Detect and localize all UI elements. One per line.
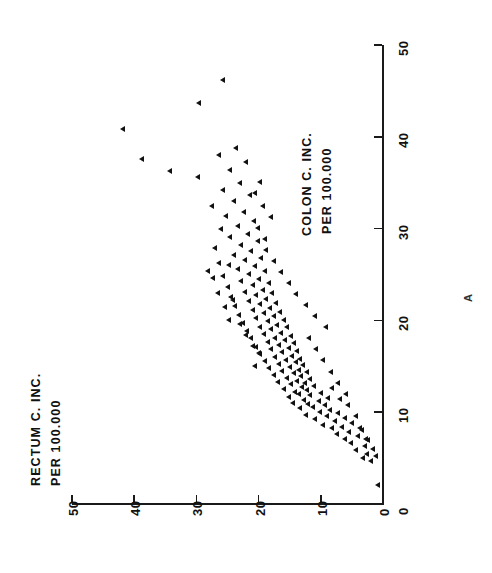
scatter-point <box>265 339 270 345</box>
scatter-point <box>271 372 276 378</box>
scatter-point <box>209 203 214 209</box>
scatter-point <box>282 337 287 343</box>
scatter-point <box>226 262 231 268</box>
scatter-point <box>375 482 380 488</box>
y-axis-title-line1: RECTUM C. INC. <box>29 373 43 486</box>
scatter-point <box>368 458 373 464</box>
scatter-point <box>290 400 295 406</box>
scatter-point <box>215 290 220 296</box>
scatter-point <box>250 343 255 349</box>
plate-annotation: A <box>462 294 474 302</box>
scatter-point <box>231 252 236 258</box>
scatter-point <box>212 245 217 251</box>
scatter-point <box>312 313 317 319</box>
y-tick-label: 20 <box>253 501 268 516</box>
scatter-point <box>241 209 246 215</box>
y-axis-title-line2: PER 100.000 <box>49 400 63 486</box>
scatter-point <box>256 276 261 282</box>
scatter-point <box>337 396 342 402</box>
scatter-point <box>316 398 321 404</box>
scatter-point <box>235 223 240 229</box>
scatter-point <box>167 168 172 174</box>
scatter-point <box>266 280 271 286</box>
scatter-point <box>327 407 332 413</box>
scatter-point <box>301 397 306 403</box>
scatter-point <box>317 409 322 415</box>
scatter-point <box>262 236 267 242</box>
y-axis-line <box>72 503 384 505</box>
scatter-point <box>329 425 334 431</box>
x-axis-title-line1: COLON C. INC. <box>300 132 314 236</box>
scatter-point <box>205 268 210 274</box>
scatter-point <box>256 350 261 356</box>
scatter-point <box>268 346 273 352</box>
scatter-point <box>257 301 262 307</box>
scatter-point <box>263 296 268 302</box>
scatter-point <box>323 324 328 330</box>
scatter-point <box>373 453 378 459</box>
scatter-point <box>245 231 250 237</box>
y-tick-label: 50 <box>66 501 81 516</box>
scatter-point <box>257 324 262 330</box>
scatter-point <box>310 404 315 410</box>
scatter-point <box>332 418 337 424</box>
scatter-point <box>242 257 247 263</box>
scatter-point <box>286 394 291 400</box>
scatter-point <box>292 389 297 395</box>
scatter-point <box>278 269 283 275</box>
scatter-point <box>248 248 253 254</box>
scatter-point <box>355 433 360 439</box>
scatter-point <box>297 356 302 362</box>
scatter-point <box>313 346 318 352</box>
scatter-point <box>262 268 267 274</box>
scatter-point <box>281 317 286 323</box>
x-tick-label: 10 <box>396 408 411 423</box>
scatter-point <box>343 391 348 397</box>
y-tick-label: 0 <box>377 508 392 516</box>
scatter-point <box>339 424 344 430</box>
scatter-point <box>120 126 125 132</box>
scatter-point <box>271 313 276 319</box>
scatter-point <box>278 330 283 336</box>
scatter-point <box>263 247 268 253</box>
scatter-point <box>272 335 277 341</box>
scatter-point <box>362 443 367 449</box>
x-tick-mark <box>374 136 382 138</box>
scatter-point <box>304 369 309 375</box>
scatter-point <box>329 385 334 391</box>
scatter-point <box>349 420 354 426</box>
scatter-point <box>357 425 362 431</box>
scatter-point <box>258 255 263 261</box>
scatter-point <box>246 271 251 277</box>
x-tick-label: 30 <box>396 224 411 239</box>
scatter-point <box>238 278 243 284</box>
scatter-point <box>311 383 316 389</box>
scatter-point <box>252 263 257 269</box>
scatter-point <box>293 291 298 297</box>
scatter-point <box>252 363 257 369</box>
scatter-point <box>216 152 221 158</box>
scatter-point <box>243 332 248 338</box>
x-tick-mark <box>374 411 382 413</box>
scatter-point <box>305 401 310 407</box>
scatter-point <box>223 213 228 219</box>
scatter-point <box>303 412 308 418</box>
scatter-point <box>322 402 327 408</box>
scatter-point <box>225 284 230 290</box>
scatter-point <box>272 354 277 360</box>
scatter-point <box>255 238 260 244</box>
scatter-point <box>273 300 278 306</box>
scatter-point <box>236 312 241 318</box>
scatter-point <box>284 324 289 330</box>
x-axis-line <box>382 45 384 505</box>
scatter-point <box>320 422 325 428</box>
scatter-point <box>307 392 312 398</box>
scatter-point <box>312 416 317 422</box>
x-tick-label: 40 <box>396 132 411 147</box>
scatter-point <box>298 373 303 379</box>
y-tick-label: 10 <box>315 501 330 516</box>
scatter-point <box>277 309 282 315</box>
scatter-point <box>231 198 236 204</box>
scatter-point <box>235 266 240 272</box>
scatter-point <box>283 357 288 363</box>
